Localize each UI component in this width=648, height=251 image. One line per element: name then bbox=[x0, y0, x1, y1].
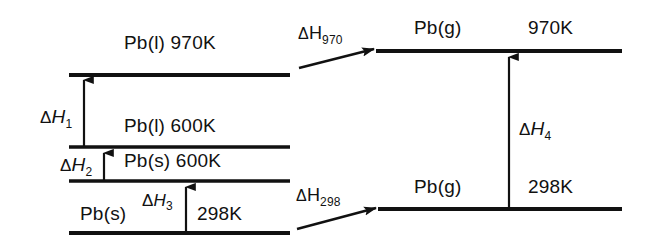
subscript-2: 2 bbox=[85, 165, 92, 179]
delta-symbol: Δ bbox=[142, 191, 154, 210]
h-symbol: H bbox=[52, 106, 66, 127]
subscript-1: 1 bbox=[65, 117, 72, 131]
level-label-pb-l-600: Pb(l) 600K bbox=[124, 116, 216, 135]
level-label-pb-s-600: Pb(s) 600K bbox=[124, 151, 221, 170]
delta-symbol: Δ bbox=[519, 120, 531, 139]
arrow-label-dH4: ΔH4 bbox=[519, 119, 551, 142]
subscript-970: 970 bbox=[322, 33, 343, 47]
arrow-label-dH2: ΔH2 bbox=[60, 155, 92, 178]
subscript-298: 298 bbox=[320, 195, 341, 209]
arrow-label-dH3: ΔH3 bbox=[142, 192, 173, 212]
subscript-3: 3 bbox=[166, 199, 173, 213]
level-label-pb-g-298-species: Pb(g) bbox=[414, 177, 461, 196]
delta-symbol: Δ bbox=[298, 25, 309, 42]
delta-symbol: Δ bbox=[296, 187, 307, 204]
level-label-pb-g-970-temperature: 970K bbox=[528, 18, 573, 37]
level-label-pb-g-970-species: Pb(g) bbox=[414, 18, 461, 37]
h-symbol: H bbox=[309, 23, 322, 43]
arrow-dH298 bbox=[297, 208, 376, 229]
h-symbol: H bbox=[531, 118, 545, 139]
subscript-4: 4 bbox=[544, 129, 551, 143]
h-symbol: H bbox=[307, 185, 320, 205]
right-level-lines bbox=[376, 51, 622, 209]
delta-symbol: Δ bbox=[60, 156, 72, 175]
level-label-pb-l-970: Pb(l) 970K bbox=[124, 33, 216, 52]
h-symbol: H bbox=[154, 191, 166, 210]
enthalpy-cycle-diagram: Pb(l) 970K Pb(l) 600K Pb(s) 600K Pb(s) 2… bbox=[0, 0, 648, 251]
h-symbol: H bbox=[72, 154, 86, 175]
arrow-label-dH1: ΔH1 bbox=[40, 107, 72, 130]
arrow-label-dH970: ΔH970 bbox=[298, 24, 343, 46]
level-label-pb-g-298-temperature: 298K bbox=[528, 177, 573, 196]
delta-symbol: Δ bbox=[40, 108, 52, 127]
level-label-pb-s-298-species: Pb(s) bbox=[80, 204, 126, 223]
arrow-dH970 bbox=[299, 49, 374, 68]
arrow-label-dH298: ΔH298 bbox=[296, 186, 341, 208]
level-label-pb-s-298-temperature: 298K bbox=[197, 204, 242, 223]
